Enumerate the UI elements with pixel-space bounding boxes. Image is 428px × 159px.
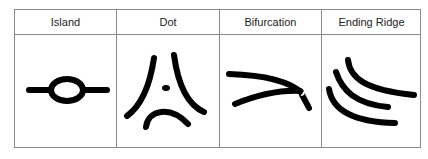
dot-ridge-icon <box>127 55 204 127</box>
island-ridge-icon <box>29 79 107 101</box>
ending-ridge-icon <box>329 60 414 123</box>
bifurcation-ridge-icon <box>229 74 309 108</box>
